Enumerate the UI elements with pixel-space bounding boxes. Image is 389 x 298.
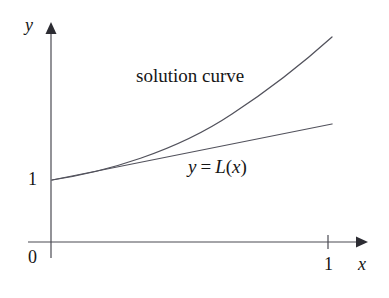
linearization-annotation: y=L(x)	[188, 157, 247, 176]
eq-function-name: L	[215, 156, 226, 177]
y-axis-label: y	[25, 16, 33, 34]
eq-lhs-y: y	[188, 156, 196, 177]
y-axis	[46, 22, 57, 258]
x-axis-label: x	[358, 255, 366, 273]
solution-curve-annotation: solution curve	[136, 66, 244, 85]
eq-argument-x: x	[232, 156, 240, 177]
x-tick-label-one: 1	[324, 255, 333, 273]
origin-label: 0	[28, 248, 37, 266]
eq-close-paren: )	[241, 156, 247, 177]
y-axis-arrowhead	[46, 22, 57, 34]
eq-equals-sign: =	[200, 156, 211, 177]
figure-container: y x 1 0 1 solution curve y=L(x)	[0, 0, 389, 298]
x-axis-arrowhead	[356, 237, 368, 248]
x-axis	[28, 235, 368, 249]
y-tick-label-one: 1	[28, 170, 37, 188]
